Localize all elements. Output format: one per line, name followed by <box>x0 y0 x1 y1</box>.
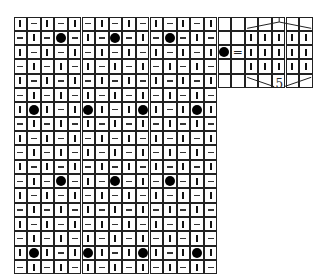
chart-cell <box>163 74 177 88</box>
purl-stitch-icon <box>44 37 50 38</box>
chart-cell <box>14 31 28 45</box>
bobble-icon <box>83 105 93 115</box>
chart-cell <box>68 17 82 31</box>
purl-stitch-icon <box>72 238 78 239</box>
purl-stitch-icon <box>44 209 50 210</box>
purl-stitch-icon <box>167 195 173 196</box>
chart-cell <box>27 102 41 116</box>
chart-cell <box>82 117 96 131</box>
knit-stitch-icon <box>46 106 48 113</box>
purl-stitch-icon <box>153 181 159 182</box>
chart-cell <box>82 17 96 31</box>
knit-stitch-icon <box>101 77 103 84</box>
knit-stitch-icon <box>114 92 116 99</box>
knit-stitch-icon <box>142 63 144 70</box>
chart-cell <box>82 174 96 188</box>
bobble-icon <box>56 33 66 43</box>
chart-cell <box>14 45 28 59</box>
knit-stitch-icon <box>46 135 48 142</box>
chart-cell <box>27 260 41 274</box>
chart-cell <box>82 88 96 102</box>
purl-stitch-icon <box>17 95 23 96</box>
knit-stitch-icon <box>87 206 89 213</box>
chart-cell <box>109 217 123 231</box>
knit-stitch-icon <box>305 49 307 56</box>
chart-cell <box>54 59 68 73</box>
chart-cell <box>150 31 164 45</box>
chart-cell <box>82 188 96 202</box>
knit-stitch-icon <box>210 20 212 27</box>
purl-stitch-icon <box>112 224 118 225</box>
chart-cell <box>204 231 218 245</box>
knit-stitch-icon <box>291 63 293 70</box>
knit-stitch-icon <box>196 206 198 213</box>
knit-stitch-icon <box>128 20 130 27</box>
purl-stitch-icon <box>58 52 64 53</box>
knit-stitch-icon <box>101 192 103 199</box>
bobble-icon <box>165 176 175 186</box>
chart-cell <box>68 88 82 102</box>
purl-stitch-icon <box>99 37 105 38</box>
chart-cell <box>177 17 191 31</box>
purl-stitch-icon <box>99 238 105 239</box>
chart-cell <box>136 203 150 217</box>
legend-cell <box>272 74 286 88</box>
chart-cell <box>122 145 136 159</box>
chart-cell <box>95 45 109 59</box>
knit-stitch-icon <box>33 206 35 213</box>
purl-stitch-icon <box>99 123 105 124</box>
bobble-icon <box>165 33 175 43</box>
legend-cell <box>286 31 300 45</box>
chart-cell <box>150 102 164 116</box>
chart-cell <box>190 160 204 174</box>
legend-cell <box>299 17 313 31</box>
knit-stitch-icon <box>101 49 103 56</box>
purl-stitch-icon <box>180 267 186 268</box>
chart-cell <box>190 260 204 274</box>
chart-cell <box>177 74 191 88</box>
purl-stitch-icon <box>194 23 200 24</box>
chart-cell <box>204 203 218 217</box>
chart-cell <box>14 217 28 231</box>
chart-cell <box>14 145 28 159</box>
purl-stitch-icon <box>180 66 186 67</box>
chart-cell <box>68 217 82 231</box>
chart-cell <box>163 160 177 174</box>
chart-cell <box>150 45 164 59</box>
chart-cell <box>150 145 164 159</box>
chart-cell <box>68 45 82 59</box>
chart-cell <box>68 102 82 116</box>
chart-cell <box>54 131 68 145</box>
knit-stitch-icon <box>128 77 130 84</box>
chart-cell <box>163 31 177 45</box>
purl-stitch-icon <box>44 66 50 67</box>
chart-cell <box>204 45 218 59</box>
chart-cell <box>27 145 41 159</box>
knit-stitch-icon <box>60 92 62 99</box>
purl-stitch-icon <box>58 138 64 139</box>
knit-stitch-icon <box>182 163 184 170</box>
chart-cell <box>122 260 136 274</box>
chart-cell <box>150 188 164 202</box>
chart-cell <box>27 17 41 31</box>
chart-cell <box>27 174 41 188</box>
purl-stitch-icon <box>140 166 146 167</box>
chart-cell <box>190 174 204 188</box>
purl-stitch-icon <box>167 23 173 24</box>
chart-cell <box>122 188 136 202</box>
chart-cell <box>163 17 177 31</box>
chart-cell <box>122 131 136 145</box>
chart-cell <box>190 117 204 131</box>
knit-stitch-icon <box>87 120 89 127</box>
knit-stitch-icon <box>210 135 212 142</box>
legend-cell <box>299 45 313 59</box>
legend-cell <box>258 74 272 88</box>
bobble-icon <box>110 176 120 186</box>
purl-stitch-icon <box>180 37 186 38</box>
purl-stitch-icon <box>31 166 37 167</box>
chart-cell <box>14 246 28 260</box>
chart-cell <box>41 131 55 145</box>
knit-stitch-icon <box>182 77 184 84</box>
knit-stitch-icon <box>74 249 76 256</box>
chart-cell <box>68 145 82 159</box>
